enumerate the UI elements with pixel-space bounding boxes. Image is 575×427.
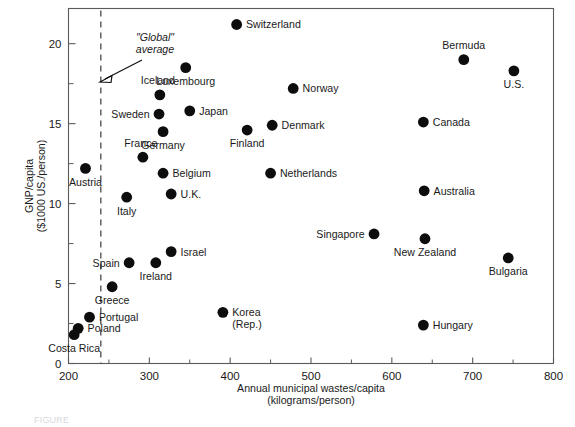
x-axis-title-line1: Annual municipal wastes/capita	[237, 382, 385, 394]
point-label-israel: Israel	[181, 246, 207, 258]
data-point-netherlands	[265, 168, 276, 179]
point-label-hungary: Hungary	[433, 319, 474, 331]
y-tick-label: 15	[49, 118, 62, 130]
scatter-plot: 200300400500600700800 05101520 Switzerla…	[0, 0, 575, 427]
data-point-costa-rica	[69, 329, 80, 340]
data-point-israel	[166, 246, 177, 257]
point-label-new-zealand: New Zealand	[394, 246, 457, 258]
point-labels: SwitzerlandBermudaU.S.LuxembourgNorwayIc…	[48, 18, 528, 354]
point-label-italy: Italy	[117, 205, 137, 217]
point-label-spain: Spain	[93, 257, 120, 269]
point-label-bulgaria: Bulgaria	[489, 265, 528, 277]
x-tick-label: 600	[382, 370, 401, 382]
x-tick-label: 800	[544, 370, 563, 382]
data-point-austria	[80, 163, 91, 174]
data-points	[69, 19, 520, 340]
point-label-iceland: Iceland	[141, 74, 175, 86]
data-point-finland	[242, 125, 253, 136]
data-point-new-zealand	[420, 233, 431, 244]
point-label-austria: Austria	[69, 176, 102, 188]
point-label-u-k: U.K.	[181, 188, 202, 200]
point-label-belgium: Belgium	[172, 167, 210, 179]
x-axis-ticks: 200300400500600700800	[59, 358, 563, 382]
point-label-australia: Australia	[434, 185, 475, 197]
data-point-bulgaria	[503, 253, 514, 264]
data-point-u-s	[508, 65, 519, 76]
x-tick-label: 300	[140, 370, 159, 382]
data-point-ireland	[150, 257, 161, 268]
x-tick-label: 500	[301, 370, 320, 382]
x-tick-label: 200	[59, 370, 78, 382]
annotation-arrow-icon	[100, 60, 142, 83]
x-tick-label: 400	[221, 370, 240, 382]
figure-caption-strip: FIGURE	[0, 414, 575, 427]
data-point-sweden	[154, 109, 165, 120]
point-label-greece: Greece	[95, 294, 130, 306]
global-average-label-line2: average	[136, 43, 174, 55]
data-point-spain	[124, 257, 135, 268]
point-label-singapore: Singapore	[316, 228, 364, 240]
data-point-germany	[158, 126, 169, 137]
point-label-japan: Japan	[199, 105, 228, 117]
data-point-france	[137, 152, 148, 163]
data-point-switzerland	[231, 19, 242, 30]
point-label-france: France	[124, 137, 157, 149]
global-average-label-line1: "Global"	[136, 31, 175, 43]
point-label-ireland: Ireland	[140, 270, 172, 282]
figure-caption: FIGURE	[34, 415, 69, 425]
data-point-singapore	[369, 229, 380, 240]
data-point-japan	[184, 105, 195, 116]
point-label-korea-rep: (Rep.)	[232, 318, 261, 330]
data-point-denmark	[267, 120, 278, 131]
data-point-hungary	[418, 320, 429, 331]
x-tick-label: 700	[463, 370, 482, 382]
point-label-bermuda: Bermuda	[442, 39, 485, 51]
point-label-denmark: Denmark	[282, 119, 326, 131]
point-label-portugal: Portugal	[99, 311, 138, 323]
y-axis-title-line1: GNP/capita	[23, 159, 35, 213]
point-label-u-s: U.S.	[504, 78, 525, 90]
x-axis-title-line2: (kilograms/person)	[267, 394, 355, 406]
y-tick-label: 5	[55, 278, 61, 290]
point-label-costa-rica: Costa Rica	[48, 342, 100, 354]
y-tick-label: 20	[49, 38, 62, 50]
data-point-greece	[107, 281, 118, 292]
point-label-canada: Canada	[433, 116, 470, 128]
point-label-sweden: Sweden	[111, 108, 149, 120]
data-point-u-k	[166, 189, 177, 200]
y-axis-ticks: 05101520	[49, 38, 76, 370]
point-label-switzerland: Switzerland	[246, 18, 301, 30]
data-point-belgium	[158, 168, 169, 179]
data-point-iceland	[154, 89, 165, 100]
data-point-bermuda	[458, 54, 469, 65]
data-point-italy	[121, 192, 132, 203]
figure-container: 200300400500600700800 05101520 Switzerla…	[0, 0, 575, 427]
data-point-portugal	[84, 312, 95, 323]
data-point-canada	[418, 117, 429, 128]
point-label-poland: Poland	[88, 322, 121, 334]
data-point-norway	[288, 83, 299, 94]
data-point-luxembourg	[180, 62, 191, 73]
point-label-finland: Finland	[230, 137, 265, 149]
data-point-korea-rep	[217, 307, 228, 318]
point-label-korea-rep: Korea	[232, 306, 260, 318]
data-point-australia	[419, 185, 430, 196]
y-tick-label: 0	[55, 358, 61, 370]
point-label-norway: Norway	[303, 82, 340, 94]
plot-frame	[69, 9, 554, 364]
point-label-netherlands: Netherlands	[280, 167, 337, 179]
y-axis-title-line2: ($1000 US./person)	[35, 140, 47, 232]
y-tick-label: 10	[49, 198, 62, 210]
